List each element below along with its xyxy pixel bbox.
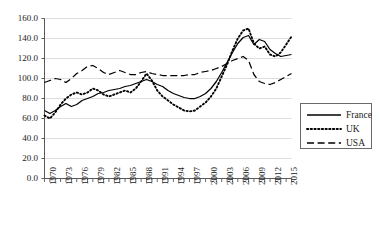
series-line-uk bbox=[45, 29, 292, 119]
legend-label: France bbox=[346, 110, 372, 120]
x-tick-label: 1985 bbox=[129, 167, 138, 185]
x-tick-label: 2006 bbox=[242, 167, 251, 185]
legend-item-usa[interactable]: USA bbox=[306, 138, 365, 148]
x-tick-label: 2003 bbox=[226, 167, 235, 185]
legend: FranceUKUSA bbox=[300, 103, 372, 149]
legend-label: UK bbox=[346, 124, 360, 134]
x-tick-label: 2000 bbox=[210, 167, 219, 185]
x-tick-label: 2009 bbox=[258, 167, 267, 185]
line-chart: 0.020.040.060.080.0100.0120.0140.0160.0 … bbox=[0, 0, 376, 236]
data-series-layer bbox=[45, 29, 292, 119]
gridlines bbox=[45, 19, 292, 179]
x-tick-label: 1970 bbox=[49, 167, 58, 185]
legend-item-france[interactable]: France bbox=[306, 110, 372, 120]
series-line-usa bbox=[45, 57, 292, 85]
x-tick-label: 2015 bbox=[290, 167, 299, 185]
x-tick-label: 1973 bbox=[65, 167, 74, 185]
y-tick-label: 20.0 bbox=[4, 154, 38, 163]
y-tick-label: 80.0 bbox=[4, 94, 38, 103]
x-tick-label: 1988 bbox=[145, 167, 154, 185]
legend-item-uk[interactable]: UK bbox=[306, 124, 360, 134]
x-tick-label: 1997 bbox=[193, 167, 202, 185]
y-tick-label: 140.0 bbox=[4, 34, 38, 43]
x-tick-label: 2012 bbox=[274, 167, 283, 185]
legend-label: USA bbox=[346, 138, 365, 148]
y-tick-label: 100.0 bbox=[4, 74, 38, 83]
x-tick-label: 1982 bbox=[113, 167, 122, 185]
y-tick-label: 0.0 bbox=[4, 174, 38, 183]
x-tick-label: 1991 bbox=[161, 167, 170, 185]
y-tick-label: 160.0 bbox=[4, 14, 38, 23]
legend-swatch-dashed bbox=[306, 138, 342, 148]
legend-swatch-solid bbox=[306, 110, 342, 120]
y-tick-label: 60.0 bbox=[4, 114, 38, 123]
x-tick-label: 1979 bbox=[97, 167, 106, 185]
x-tick-label: 1994 bbox=[177, 167, 186, 185]
y-tick-label: 120.0 bbox=[4, 54, 38, 63]
legend-swatch-dotted bbox=[306, 124, 342, 134]
x-tick-label: 1976 bbox=[81, 167, 90, 185]
y-tick-label: 40.0 bbox=[4, 134, 38, 143]
